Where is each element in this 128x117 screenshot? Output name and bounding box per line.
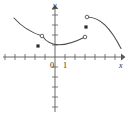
open-circle-middle-branch-end <box>83 35 87 39</box>
function-graph-figure: y x 0 1 <box>0 0 128 117</box>
x-axis-arrowhead <box>121 54 126 61</box>
graph-canvas <box>0 0 128 117</box>
curve-right-branch <box>88 17 122 49</box>
curve-group <box>14 17 121 49</box>
filled-dot-isolated-value-right <box>84 25 87 28</box>
axes-group <box>3 5 126 112</box>
curve-left-branch <box>14 18 42 36</box>
open-circle-right-branch-start <box>85 15 89 19</box>
x-axis-label: x <box>119 62 123 70</box>
unit-tick-label: 1 <box>63 62 67 70</box>
y-axis-label: y <box>53 2 57 10</box>
open-point-markers <box>40 15 89 39</box>
filled-dot-isolated-value-left <box>36 44 39 47</box>
open-circle-left-branch-end <box>40 34 44 38</box>
curve-middle-branch <box>43 36 85 45</box>
origin-tick-label: 0 <box>50 62 54 70</box>
